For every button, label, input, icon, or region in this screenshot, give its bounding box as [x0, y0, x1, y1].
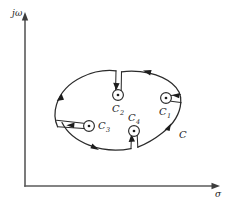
x-axis-label: σ	[215, 190, 221, 199]
contour-C1-bridge-arrow	[172, 93, 180, 98]
outer-contour-arc-left	[55, 71, 116, 127]
contour-C1-label: C1	[159, 107, 171, 117]
contour-C3-label: C3	[98, 121, 110, 131]
outer-contour-arrow-bottom	[90, 143, 99, 150]
contour-C4-bridge-right	[137, 135, 138, 148]
contour-C4-label: C4	[128, 113, 140, 123]
outer-contour-arc-top-right	[122, 71, 181, 102]
contour-diagram-figure: jω σ C C1 C2 C3 C4	[0, 0, 231, 203]
contour-C1-pole-dot	[165, 97, 168, 100]
contour-C1-bridge-lower	[171, 101, 181, 102]
contour-C3-pole-dot	[88, 125, 91, 128]
contour-C3-bridge-upper	[57, 120, 84, 123]
contour-C2-label: C2	[112, 104, 124, 114]
contour-C3-bridge-lower	[58, 127, 84, 129]
outer-contour-label: C	[179, 130, 187, 140]
inner-contour-C1	[161, 93, 181, 104]
contour-C1-label-sub: 1	[167, 112, 171, 120]
contour-C2-label-base: C	[112, 103, 120, 114]
contour-C4-label-sub: 4	[136, 118, 140, 126]
contour-C4-pole-dot	[133, 130, 136, 133]
contour-C3-label-sub: 3	[106, 126, 110, 134]
contour-C2-label-sub: 2	[120, 109, 124, 117]
contour-C1-label-base: C	[159, 106, 167, 117]
contour-C3-label-base: C	[98, 120, 106, 131]
inner-contour-C4	[129, 126, 140, 149]
axes-group	[22, 12, 220, 189]
inner-contour-C2	[113, 71, 124, 101]
inner-contour-C3	[57, 120, 95, 131]
y-axis-label: jω	[12, 9, 23, 18]
diagram-canvas	[0, 0, 231, 203]
contour-C2-pole-dot	[117, 94, 120, 97]
contour-C4-label-base: C	[128, 112, 136, 123]
